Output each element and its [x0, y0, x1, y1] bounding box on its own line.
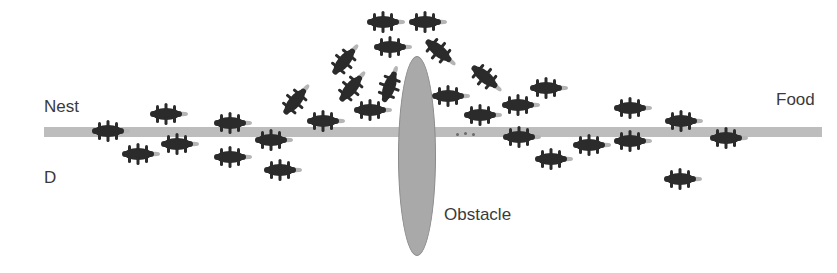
- ant-icon: [611, 130, 653, 152]
- ant-icon: [406, 11, 448, 33]
- ant-icon: [211, 112, 253, 134]
- pheromone-dot: [464, 132, 467, 135]
- ant-icon: [707, 127, 749, 149]
- ant-icon: [364, 11, 406, 33]
- ant-icon: [252, 129, 294, 151]
- ant-icon: [304, 110, 346, 132]
- pheromone-dot: [472, 133, 475, 136]
- ant-icon: [532, 148, 574, 170]
- ant-icon: [611, 97, 653, 119]
- pheromone-dot: [456, 133, 459, 136]
- ant-icon: [158, 133, 200, 155]
- ant-icon: [147, 103, 189, 125]
- food-label: Food: [776, 91, 815, 108]
- obstacle-ellipse: [398, 56, 436, 256]
- ant-icon: [371, 36, 413, 58]
- obstacle-label: Obstacle: [444, 206, 511, 223]
- ant-icon: [662, 110, 704, 132]
- ant-trail-diagram: Nest Food Obstacle D: [0, 0, 837, 273]
- ant-icon: [570, 134, 612, 156]
- ant-icon: [211, 146, 253, 168]
- ant-icon: [89, 120, 131, 142]
- ant-icon: [661, 168, 703, 190]
- ant-icon: [500, 126, 542, 148]
- panel-letter-label: D: [44, 169, 56, 186]
- ant-icon: [261, 159, 303, 181]
- ant-icon: [461, 104, 503, 126]
- nest-label: Nest: [44, 98, 79, 115]
- ant-icon: [527, 77, 569, 99]
- ant-icon: [119, 143, 161, 165]
